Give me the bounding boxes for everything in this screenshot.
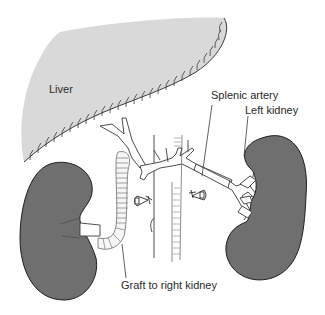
aorta <box>151 135 160 258</box>
label-liver: Liver <box>49 84 73 95</box>
label-left-kidney: Left kidney <box>245 105 298 116</box>
diagram: Liver Splenic artery Left kidney Graft t… <box>0 0 325 315</box>
left-kidney <box>226 136 307 280</box>
splenic-artery <box>194 164 256 214</box>
label-splenic-artery: Splenic artery <box>211 90 278 101</box>
graft-to-right-kidney <box>98 152 130 250</box>
label-graft: Graft to right kidney <box>121 280 217 291</box>
diagram-canvas <box>0 0 325 315</box>
right-renal-anastomosis <box>80 223 100 236</box>
ligated-renal-stumps <box>135 190 207 206</box>
